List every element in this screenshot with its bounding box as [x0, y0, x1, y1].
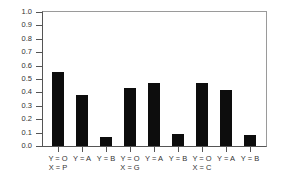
- x-tick: [154, 147, 155, 152]
- y-tick: [36, 92, 42, 93]
- x-group-label: X = C: [182, 164, 222, 172]
- y-tick-label: 0.5: [8, 75, 32, 83]
- y-tick-label: 0.8: [8, 35, 32, 43]
- y-tick-label: 0.3: [8, 102, 32, 110]
- x-tick: [58, 147, 59, 152]
- bar: [148, 83, 160, 146]
- bar: [244, 135, 256, 146]
- y-tick: [36, 52, 42, 53]
- x-tick: [106, 147, 107, 152]
- bar: [124, 88, 136, 146]
- y-tick: [36, 39, 42, 40]
- x-tick: [130, 147, 131, 152]
- x-tick: [82, 147, 83, 152]
- bar: [76, 95, 88, 146]
- y-tick: [36, 146, 42, 147]
- y-tick: [36, 79, 42, 80]
- x-tick-label: Y = B: [230, 155, 270, 163]
- y-tick-label: 0.6: [8, 62, 32, 70]
- x-tick: [250, 147, 251, 152]
- bar: [52, 72, 64, 146]
- y-tick: [36, 106, 42, 107]
- x-tick: [202, 147, 203, 152]
- y-tick-label: 0.4: [8, 88, 32, 96]
- y-tick-label: 1.0: [8, 8, 32, 16]
- y-tick: [36, 119, 42, 120]
- y-tick: [36, 133, 42, 134]
- y-tick-label: 0.7: [8, 48, 32, 56]
- bar: [100, 137, 112, 146]
- x-group-label: X = P: [38, 164, 78, 172]
- x-tick: [178, 147, 179, 152]
- y-tick-label: 0.0: [8, 142, 32, 150]
- bar: [196, 83, 208, 146]
- x-group-label: X = G: [110, 164, 150, 172]
- y-tick: [36, 25, 42, 26]
- y-tick-label: 0.2: [8, 115, 32, 123]
- y-tick: [36, 12, 42, 13]
- y-tick-label: 0.1: [8, 129, 32, 137]
- y-tick-label: 0.9: [8, 21, 32, 29]
- x-tick: [226, 147, 227, 152]
- y-tick: [36, 66, 42, 67]
- bar: [172, 134, 184, 146]
- bar: [220, 90, 232, 146]
